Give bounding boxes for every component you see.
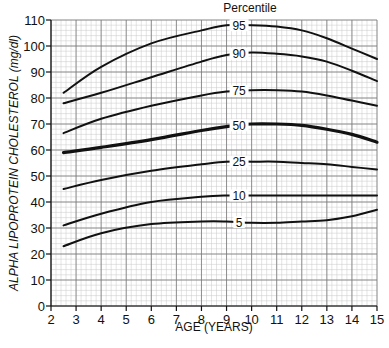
x-tick-label: 11: [270, 312, 284, 327]
y-tick-label: 90: [31, 65, 45, 80]
x-tick-label: 12: [295, 312, 309, 327]
x-tick-label: 2: [47, 312, 54, 327]
y-tick-label: 70: [31, 117, 45, 132]
x-tick-label: 4: [98, 312, 105, 327]
y-tick-label: 60: [31, 143, 45, 158]
percentile-labels: 9590755025105: [230, 19, 249, 230]
y-tick-label: 10: [31, 273, 45, 288]
y-tick-label: 100: [23, 39, 45, 54]
percentile-curve-50: [64, 124, 378, 153]
x-tick-label: 6: [148, 312, 155, 327]
percentile-label-75: 75: [232, 84, 246, 98]
percentile-label-10: 10: [232, 189, 246, 203]
y-tick-label: 50: [31, 169, 45, 184]
y-tick-label: 0: [38, 299, 45, 314]
y-tick-label: 20: [31, 247, 45, 262]
x-axis-title: AGE (YEARS): [175, 320, 252, 334]
legend-title: Percentile: [223, 1, 277, 15]
percentile-label-50: 50: [232, 119, 246, 133]
y-axis-ticks: 0102030405060708090100110: [23, 13, 51, 314]
y-tick-label: 40: [31, 195, 45, 210]
x-tick-label: 5: [123, 312, 130, 327]
percentile-curves: [64, 25, 378, 246]
y-tick-label: 30: [31, 221, 45, 236]
x-tick-label: 14: [345, 312, 359, 327]
x-tick-label: 3: [72, 312, 79, 327]
y-tick-label: 80: [31, 91, 45, 106]
x-tick-label: 13: [320, 312, 334, 327]
percentile-chart: 23456789101112131415 0102030405060708090…: [0, 0, 389, 348]
y-tick-label: 110: [24, 13, 45, 28]
percentile-label-25: 25: [232, 155, 246, 169]
y-axis-title: ALPHA LIPOPROTEIN CHOLESTEROL (mg/dl): [7, 35, 21, 292]
percentile-label-95: 95: [232, 19, 246, 33]
percentile-label-90: 90: [232, 47, 246, 61]
x-tick-label: 15: [370, 312, 384, 327]
percentile-label-5: 5: [236, 216, 243, 230]
